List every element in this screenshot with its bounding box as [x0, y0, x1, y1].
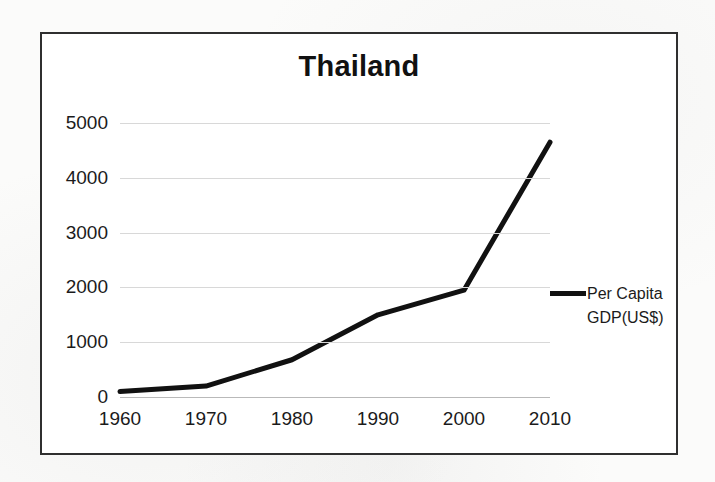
- x-axis-line: [120, 397, 550, 398]
- y-axis-tick-label: 2000: [66, 276, 108, 298]
- gridline: [120, 233, 550, 234]
- legend-item-label: Per Capita GDP(US$): [587, 282, 695, 330]
- chart-legend: Per Capita GDP(US$): [550, 282, 700, 330]
- x-axis-tick-label: 1990: [357, 408, 399, 430]
- y-axis-tick-label: 5000: [66, 112, 108, 134]
- y-axis-tick-label: 0: [97, 386, 108, 408]
- x-axis-tick-label: 2000: [443, 408, 485, 430]
- x-axis-tick-label: 2010: [529, 408, 571, 430]
- y-axis-tick-label: 3000: [66, 222, 108, 244]
- gridline: [120, 287, 550, 288]
- x-axis-tick-label: 1980: [271, 408, 313, 430]
- series-line-per-capita-gdp: [120, 123, 550, 397]
- plot-area: 0100020003000400050001960197019801990200…: [120, 123, 550, 397]
- y-axis-tick-label: 4000: [66, 167, 108, 189]
- gridline: [120, 342, 550, 343]
- x-axis-tick-label: 1960: [99, 408, 141, 430]
- legend-line-swatch-icon: [550, 291, 586, 296]
- gridline: [120, 123, 550, 124]
- chart-title: Thailand: [42, 50, 676, 83]
- scanned-page-background: Thailand 0100020003000400050001960197019…: [0, 0, 715, 482]
- chart-frame: Thailand 0100020003000400050001960197019…: [40, 32, 678, 455]
- x-axis-tick-label: 1970: [185, 408, 227, 430]
- y-axis-tick-label: 1000: [66, 331, 108, 353]
- gridline: [120, 178, 550, 179]
- legend-item-per-capita-gdp: Per Capita GDP(US$): [550, 282, 700, 330]
